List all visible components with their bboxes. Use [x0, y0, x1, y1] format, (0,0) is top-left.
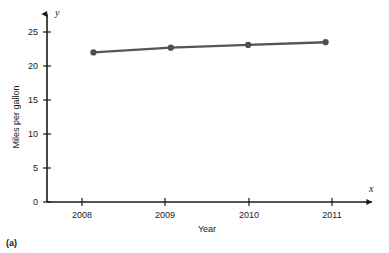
data-point-2009	[168, 45, 174, 51]
x-tick-label: 2010	[239, 210, 259, 220]
y-axis-variable-label: y	[54, 7, 60, 18]
data-point-2008	[90, 49, 96, 55]
y-tick-label: 15	[28, 95, 38, 105]
x-tick-label: 2011	[322, 210, 341, 220]
data-point-2010	[245, 42, 251, 48]
y-tick-label: 5	[33, 163, 38, 173]
figure-caption: (a)	[6, 238, 17, 248]
y-axis-title: Miles per gallon	[11, 85, 21, 148]
figure-panel: y x 0 5 10 15 20 25 2008 2009 2010	[0, 0, 389, 253]
x-tick-label: 2009	[155, 210, 175, 220]
y-tick-label: 0	[33, 197, 38, 207]
x-axis-title: Year	[198, 224, 216, 234]
line-chart: y x 0 5 10 15 20 25 2008 2009 2010	[0, 0, 389, 253]
x-tick-label: 2008	[72, 210, 92, 220]
y-tick-label: 10	[28, 129, 38, 139]
y-tick-label: 20	[28, 61, 38, 71]
y-tick-label: 25	[28, 27, 38, 37]
data-point-2011	[322, 39, 328, 45]
x-axis-variable-label: x	[368, 183, 374, 194]
